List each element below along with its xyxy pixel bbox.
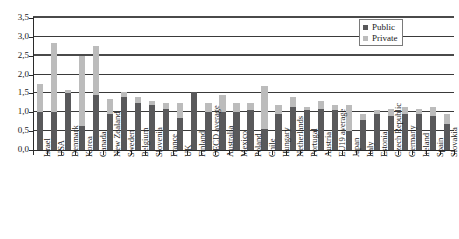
x-axis-label-korea[interactable]: Korea bbox=[85, 136, 94, 157]
x-axis-label-ireland[interactable]: Ireland bbox=[422, 133, 431, 157]
y-axis-tick-label: 0,5 bbox=[0, 126, 29, 135]
x-axis-tick-mark bbox=[33, 151, 34, 155]
bar-segment-private bbox=[93, 46, 99, 95]
bar-segment-private bbox=[304, 107, 310, 111]
bar-segment-private bbox=[121, 92, 127, 98]
x-axis-label-chile[interactable]: Chile bbox=[268, 139, 277, 157]
y-axis-tick-label: 1,0 bbox=[0, 107, 29, 116]
legend-swatch-public-icon bbox=[363, 25, 368, 30]
bar-segment-private bbox=[79, 56, 85, 126]
chart-legend: Public Private bbox=[359, 19, 403, 46]
x-axis-label-sweden[interactable]: Sweden bbox=[127, 130, 136, 157]
bar-segment-private bbox=[416, 109, 422, 115]
x-axis-label-canada[interactable]: Canada bbox=[99, 132, 108, 158]
y-axis-tick-label: 1,5 bbox=[0, 88, 29, 97]
bar-segment-private bbox=[360, 114, 366, 120]
x-axis-label-eu19-average[interactable]: EU19 average bbox=[338, 109, 347, 157]
x-axis-label-spain[interactable]: Spain bbox=[436, 138, 445, 157]
bar-segment-private bbox=[37, 84, 43, 112]
bar-group[interactable] bbox=[163, 18, 169, 150]
bar-segment-private bbox=[233, 103, 239, 112]
y-axis-tick-label: 2,5 bbox=[0, 51, 29, 60]
bar-group[interactable] bbox=[177, 18, 183, 150]
x-axis-label-estonia[interactable]: Estonia bbox=[380, 132, 389, 158]
bar-segment-private bbox=[444, 114, 450, 123]
x-axis-label-uk[interactable]: UK bbox=[184, 145, 193, 157]
legend-label-private: Private bbox=[372, 33, 398, 43]
bar-segment-private bbox=[374, 110, 380, 114]
x-axis-label-new-zealand[interactable]: New Zealand bbox=[113, 111, 122, 157]
bar-group[interactable] bbox=[37, 18, 43, 150]
x-axis-label-austria[interactable]: Austria bbox=[324, 132, 333, 157]
x-axis-label-denmark[interactable]: Denmark bbox=[71, 125, 80, 157]
x-axis-label-mexico[interactable]: Mexico bbox=[240, 131, 249, 157]
x-axis-label-usa[interactable]: USA bbox=[57, 140, 66, 157]
bar-segment-private bbox=[163, 103, 169, 109]
x-axis-label-italy[interactable]: Italy bbox=[366, 141, 375, 157]
y-axis-tick-label: 3,5 bbox=[0, 13, 29, 22]
x-axis-label-czech-republic[interactable]: Czech Republic bbox=[394, 103, 403, 157]
bar-group[interactable] bbox=[51, 18, 57, 150]
bar-segment-private bbox=[65, 90, 71, 94]
bar-segment-private bbox=[149, 101, 155, 105]
x-axis-label-oecd-average[interactable]: OECD average bbox=[212, 105, 221, 157]
legend-item-public[interactable]: Public bbox=[363, 22, 398, 32]
bar-segment-private bbox=[261, 86, 267, 129]
legend-item-private[interactable]: Private bbox=[363, 33, 398, 43]
x-axis-label-israel[interactable]: Israel bbox=[43, 138, 52, 157]
bar-group[interactable] bbox=[261, 18, 267, 150]
bar-segment-private bbox=[247, 103, 253, 111]
y-axis-tick-label: 0,0 bbox=[0, 145, 29, 154]
x-axis-label-slovenia[interactable]: Slovenia bbox=[155, 127, 164, 157]
x-axis-label-japan[interactable]: Japan bbox=[352, 138, 361, 157]
y-axis-tick-label: 3,0 bbox=[0, 32, 29, 41]
bar-group[interactable] bbox=[430, 18, 436, 150]
x-axis-label-portugal[interactable]: Portugal bbox=[310, 128, 319, 157]
x-axis-label-finland[interactable]: Finland bbox=[198, 131, 207, 157]
bar-segment-private bbox=[318, 101, 324, 109]
bar-chart: 0,00,51,01,52,02,53,03,5 IsraelUSADenmar… bbox=[0, 0, 459, 239]
x-axis-label-netherlands[interactable]: Netherlands bbox=[296, 116, 305, 157]
x-axis-label-australia[interactable]: Australia bbox=[226, 126, 235, 157]
bar-segment-private bbox=[177, 103, 183, 118]
y-axis-tick-label: 2,0 bbox=[0, 70, 29, 79]
x-axis-label-slovakia[interactable]: Slovakia bbox=[450, 127, 459, 157]
bar-segment-private bbox=[290, 97, 296, 106]
bar-segment-private bbox=[51, 43, 57, 113]
x-axis-label-france[interactable]: France bbox=[170, 134, 179, 157]
x-axis-label-germany[interactable]: Germany bbox=[408, 125, 417, 157]
x-axis-label-belgium[interactable]: Belgium bbox=[141, 128, 150, 157]
bar-segment-private bbox=[430, 107, 436, 116]
legend-label-public: Public bbox=[372, 22, 395, 32]
x-axis-label-hungary[interactable]: Hungary bbox=[282, 127, 291, 157]
x-axis-label-poland[interactable]: Poland bbox=[254, 133, 263, 157]
bar-segment-private bbox=[275, 105, 281, 114]
bar-segment-private bbox=[135, 97, 141, 103]
legend-swatch-private-icon bbox=[363, 36, 368, 41]
